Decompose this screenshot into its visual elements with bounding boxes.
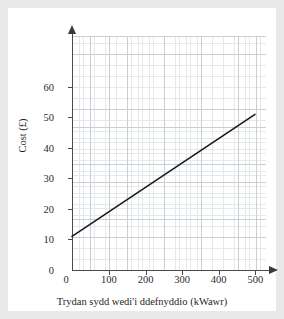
- y-axis-arrow-icon: [68, 25, 76, 34]
- y-tick-10: [68, 239, 73, 240]
- y-tick-label-50: 50: [44, 112, 55, 123]
- x-tick-label-0: 0: [63, 274, 68, 285]
- plot-area-grid: [72, 36, 266, 270]
- y-axis-line: [72, 32, 73, 271]
- y-tick-50: [68, 117, 73, 118]
- x-axis-arrow-icon: [269, 266, 278, 274]
- y-tick-label-40: 40: [44, 142, 55, 153]
- y-tick-30: [68, 178, 73, 179]
- y-tick-label-20: 20: [44, 203, 55, 214]
- x-axis-title: Trydan sydd wedi'i ddefnyddio (kWawr): [8, 296, 276, 307]
- x-tick-label-500: 500: [247, 274, 263, 285]
- y-tick-label-0: 0: [49, 265, 54, 276]
- y-tick-40: [68, 148, 73, 149]
- y-tick-20: [68, 209, 73, 210]
- x-tick-label-400: 400: [211, 274, 227, 285]
- x-tick-label-300: 300: [174, 274, 190, 285]
- y-tick-label-10: 10: [44, 234, 55, 245]
- chart-figure: 0 100 200 300 400 500 0 10 20 30 40 50 6…: [0, 0, 284, 319]
- chart-panel: 0 100 200 300 400 500 0 10 20 30 40 50 6…: [8, 8, 276, 311]
- y-tick-label-30: 30: [44, 173, 55, 184]
- y-axis-title: Cost (£): [17, 86, 28, 186]
- y-tick-60: [68, 87, 73, 88]
- x-tick-label-200: 200: [138, 274, 154, 285]
- x-axis-line: [72, 270, 274, 271]
- x-tick-label-100: 100: [101, 274, 117, 285]
- y-tick-label-60: 60: [44, 81, 55, 92]
